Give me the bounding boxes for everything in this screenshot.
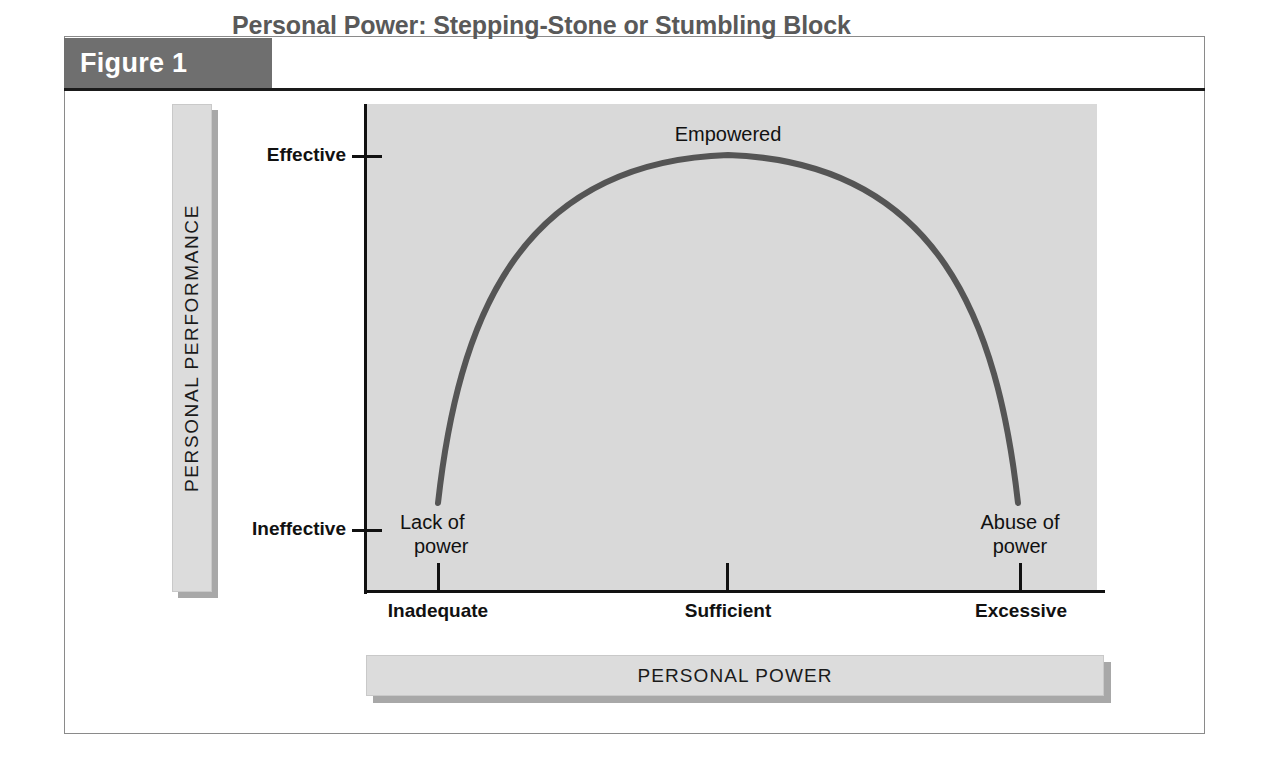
x-tick-mark-sufficient	[726, 563, 729, 593]
annotation-abuse-of-power: Abuse of power	[955, 510, 1085, 559]
figure-number-label: Figure 1	[80, 48, 187, 79]
header-divider	[64, 88, 1205, 91]
y-tick-label-ineffective: Ineffective	[190, 518, 346, 540]
y-tick-mark-ineffective	[352, 529, 382, 532]
annotation-lack-of-power-line1: Lack of	[400, 510, 530, 534]
y-axis-title-label: PERSONAL PERFORMANCE	[181, 204, 203, 492]
x-tick-label-inadequate: Inadequate	[358, 600, 518, 622]
annotation-abuse-of-power-line2: power	[955, 534, 1085, 558]
x-axis-title-bar: PERSONAL POWER	[366, 655, 1111, 703]
y-tick-label-effective: Effective	[200, 144, 346, 166]
y-tick-mark-effective	[352, 155, 382, 158]
x-tick-mark-inadequate	[437, 563, 440, 593]
x-axis-title-bar-face: PERSONAL POWER	[366, 655, 1104, 696]
x-axis-title-label: PERSONAL POWER	[637, 665, 832, 687]
x-tick-label-sufficient: Sufficient	[648, 600, 808, 622]
x-tick-label-excessive: Excessive	[941, 600, 1101, 622]
annotation-lack-of-power: Lack of power	[400, 510, 530, 559]
annotation-lack-of-power-line2: power	[400, 534, 530, 558]
figure-title: Personal Power: Stepping-Stone or Stumbl…	[232, 0, 851, 50]
annotation-abuse-of-power-line1: Abuse of	[955, 510, 1085, 534]
annotation-empowered: Empowered	[648, 122, 808, 146]
x-tick-mark-excessive	[1019, 563, 1022, 593]
